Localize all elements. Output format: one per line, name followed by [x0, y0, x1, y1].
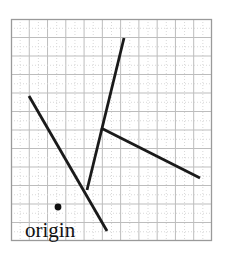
grid-figure-svg: origin [0, 0, 231, 255]
figure-container: origin [0, 0, 231, 255]
origin-dot [55, 204, 62, 211]
origin-label: origin [25, 218, 76, 242]
